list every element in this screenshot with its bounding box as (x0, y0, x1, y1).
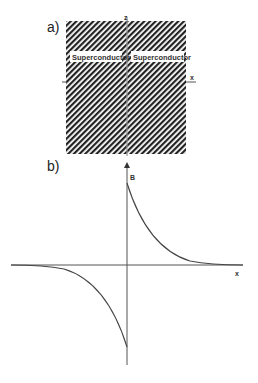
panel-a-label: a) (47, 19, 59, 35)
panel-b-label: b) (47, 158, 59, 174)
superconductor-label-left: Superconductor (72, 53, 130, 62)
b-axis-arrowhead-icon (124, 162, 130, 168)
panel-a: a) z x Superconductor Superconductor (47, 14, 196, 156)
superconductor-label-right: Superconductor (133, 53, 191, 62)
x-axis-label: x (190, 74, 194, 81)
x-axis-label-b: x (235, 270, 239, 277)
b-axis-label: B (130, 174, 135, 181)
field-curve-negative (11, 265, 127, 347)
panel-b: b) B x (11, 158, 243, 365)
field-curve-positive (127, 183, 243, 265)
superconductor-hatched-region (66, 21, 186, 154)
z-axis-label: z (124, 14, 128, 21)
